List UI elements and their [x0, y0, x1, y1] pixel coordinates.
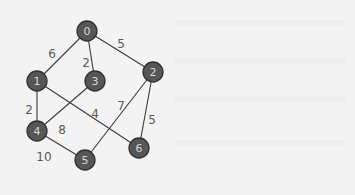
- node-label: 0: [84, 25, 91, 38]
- edge-1-6: [37, 81, 139, 148]
- edge-weight-label: 8: [58, 123, 66, 137]
- graph-node-5: 5: [75, 150, 95, 170]
- edge-weight-label: 2: [82, 56, 90, 70]
- edge-weight-label: 2: [25, 103, 33, 117]
- graph-node-4: 4: [27, 121, 47, 141]
- edge-weight-label: 6: [48, 47, 56, 61]
- edge-3-4: [37, 81, 95, 131]
- graph-node-0: 0: [77, 21, 97, 41]
- graph-node-2: 2: [143, 62, 163, 82]
- graph-node-1: 1: [27, 71, 47, 91]
- edge-weight-label: 7: [117, 99, 125, 113]
- node-label: 2: [150, 66, 157, 79]
- edge-weight-label: 5: [148, 113, 156, 127]
- node-label: 4: [34, 125, 41, 138]
- graph-node-3: 3: [85, 71, 105, 91]
- graph-node-6: 6: [129, 138, 149, 158]
- edge-weight-label: 4: [91, 107, 99, 121]
- edge-2-6: [139, 72, 153, 148]
- graph-canvas: 6252487510 0123456: [0, 0, 355, 195]
- node-label: 1: [34, 75, 41, 88]
- edge-weight-label: 10: [36, 150, 51, 164]
- node-label: 3: [92, 75, 99, 88]
- node-label: 5: [82, 154, 89, 167]
- node-label: 6: [136, 142, 143, 155]
- edge-weight-label: 5: [117, 37, 125, 51]
